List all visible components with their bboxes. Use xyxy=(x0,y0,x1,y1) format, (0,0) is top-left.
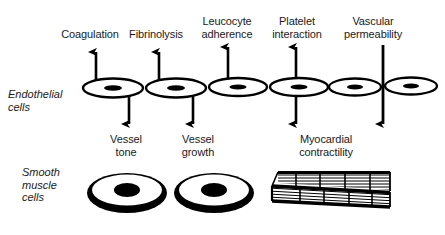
label-leucocyte-adherence: Leucocyte adherence xyxy=(192,15,262,40)
row-label-smooth-muscle-cells: Smooth muscle cells xyxy=(22,166,94,204)
endothelial-cell-6 xyxy=(385,78,437,95)
smooth-muscle-cell-2 xyxy=(174,173,254,213)
row-label-endothelial-cells: Endothelial cells xyxy=(8,88,92,113)
endothelial-cell-3 xyxy=(209,78,267,96)
myocardial-fiber xyxy=(268,172,396,207)
label-myocardial-contractility: Myocardial contractility xyxy=(278,133,374,158)
label-fibrinolysis: Fibrinolysis xyxy=(120,28,192,41)
endothelial-cell-5 xyxy=(329,79,381,96)
endothelial-cell-4 xyxy=(270,78,328,96)
myocardial-edge-left-upper xyxy=(272,172,278,186)
label-coagulation: Coagulation xyxy=(52,28,128,41)
smooth-muscle-cell-1 xyxy=(87,173,167,213)
smooth-muscle-cell-row xyxy=(87,173,254,213)
label-platelet-interaction: Platelet interaction xyxy=(262,15,332,40)
label-vessel-tone: Vessel tone xyxy=(96,133,156,158)
diagram-canvas: Endothelial cells Smooth muscle cells Co… xyxy=(0,0,445,235)
endothelial-cell-2 xyxy=(146,79,206,98)
label-vascular-permeability: Vascular permeability xyxy=(330,15,416,40)
endothelial-cell-1 xyxy=(83,79,143,98)
label-vessel-growth: Vessel growth xyxy=(168,133,228,158)
